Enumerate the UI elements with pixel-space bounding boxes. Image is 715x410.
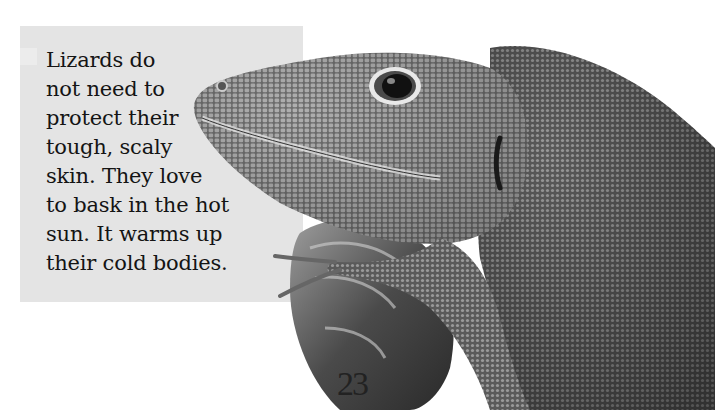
page-number: 23 [330,364,374,404]
panel-marker [20,48,37,65]
book-page: Lizards do not need to protect their tou… [0,0,715,410]
lizard-photo [190,38,715,410]
